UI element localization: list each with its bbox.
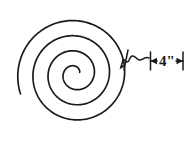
archimedean-spiral-path — [18, 21, 125, 120]
dimension-right-arrowhead-icon — [177, 58, 184, 64]
figure-canvas: | --> 4" — [0, 0, 195, 147]
spiral-group — [18, 21, 125, 120]
dimension-label: 4" — [159, 53, 175, 69]
dimension-group: 4" — [151, 52, 184, 70]
dimension-left-arrowhead-icon — [151, 58, 158, 64]
leader-group — [120, 50, 150, 70]
spiral-figure: | --> 4" — [0, 0, 195, 147]
